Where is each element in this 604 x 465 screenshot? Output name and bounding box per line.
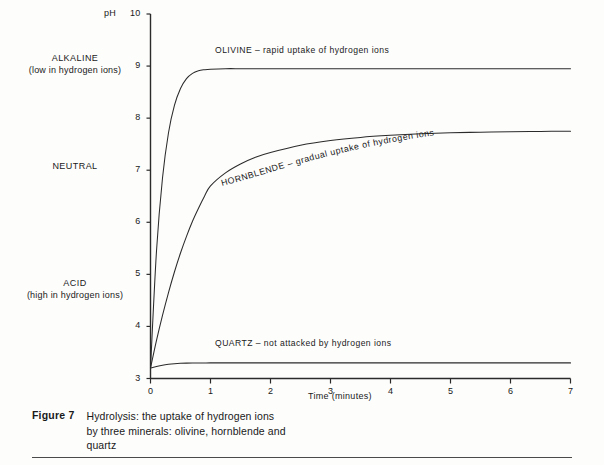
x-tick-label: 3 [323, 386, 339, 396]
x-axis-title: Time (minutes) [308, 391, 372, 401]
y-tick-label: 3 [125, 373, 141, 383]
region-acid-sub: (high in hydrogen ions) [10, 289, 140, 301]
caption-divider [32, 457, 572, 458]
curve-olivine [151, 69, 571, 368]
region-alkaline-sub: (low in hydrogen ions) [10, 64, 140, 76]
y-tick-label: 10 [125, 8, 141, 18]
data-curves [151, 69, 571, 368]
caption-line-3: quartz [86, 438, 285, 453]
y-tick-label: 8 [125, 112, 141, 122]
region-neutral-title: NEUTRAL [52, 161, 97, 171]
x-tick-marks [151, 379, 571, 384]
figure-container: pH Time (minutes) 345678910 01234567 ALK… [0, 0, 604, 465]
figure-caption-text: Hydrolysis: the uptake of hydrogen ions … [86, 409, 285, 453]
curve-label-quartz: QUARTZ – not attacked by hydrogen ions [215, 338, 392, 348]
caption-line-1: Hydrolysis: the uptake of hydrogen ions [86, 409, 285, 424]
x-tick-label: 4 [383, 386, 399, 396]
figure-number: Figure 7 [32, 409, 74, 421]
curve-quartz [151, 363, 571, 368]
curve-label-olivine: OLIVINE – rapid uptake of hydrogen ions [215, 45, 389, 55]
region-label-alkaline: ALKALINE (low in hydrogen ions) [10, 52, 140, 76]
chart-plot-area: pH Time (minutes) 345678910 01234567 ALK… [0, 0, 604, 400]
region-label-acid: ACID (high in hydrogen ions) [10, 277, 140, 301]
x-tick-label: 6 [503, 386, 519, 396]
region-acid-title: ACID [63, 278, 86, 288]
y-tick-label: 6 [125, 216, 141, 226]
y-tick-label: 4 [125, 320, 141, 330]
figure-caption: Figure 7 Hydrolysis: the uptake of hydro… [32, 409, 452, 453]
caption-line-2: by three minerals: olivine, hornblende a… [86, 424, 285, 439]
region-label-neutral: NEUTRAL [10, 160, 140, 172]
x-tick-label: 1 [203, 386, 219, 396]
x-tick-label: 7 [563, 386, 579, 396]
y-axis-title: pH [104, 8, 116, 18]
x-tick-label: 2 [263, 386, 279, 396]
curve-hornblende [151, 131, 571, 368]
x-tick-label: 0 [143, 386, 159, 396]
region-alkaline-title: ALKALINE [52, 53, 99, 63]
x-tick-label: 5 [443, 386, 459, 396]
